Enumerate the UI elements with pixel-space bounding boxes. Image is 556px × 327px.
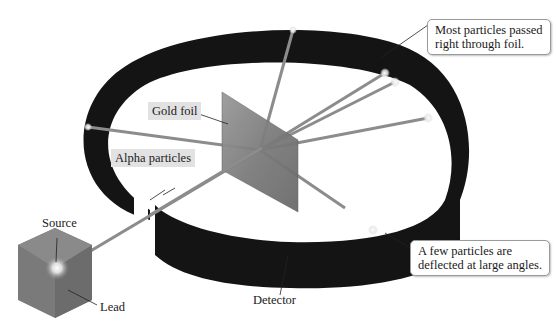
callout-most-particles: Most particles passed right through foil… [427,19,551,55]
lead-block [18,228,92,318]
label-detector: Detector [253,293,296,307]
gold-foil-experiment-diagram: Source Lead Alpha particles Gold foil De… [0,0,556,327]
callout-few-particles: A few particles are deflected at large a… [410,240,550,276]
gold-foil-sheet [222,92,298,212]
label-gold-foil: Gold foil [148,102,201,120]
label-alpha-particles: Alpha particles [111,149,195,167]
label-lead: Lead [100,300,125,314]
label-source: Source [42,216,77,230]
